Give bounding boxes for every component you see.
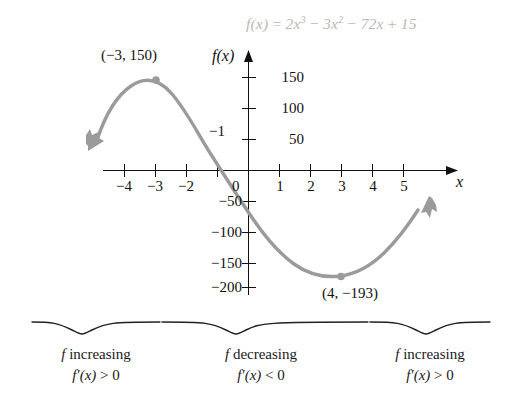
- interval-right-behavior: f increasing: [350, 344, 510, 364]
- x-tick-label-3: 3: [331, 178, 353, 195]
- interval-right-derivative: f′(x) > 0: [350, 365, 510, 385]
- x-axis-label: x: [456, 173, 463, 191]
- interval-braces: [32, 322, 490, 334]
- y-tick-label-neg50: −50: [186, 193, 242, 210]
- y-tick-label-neg200: −200: [186, 279, 242, 296]
- local-minimum-label: (4, −193): [322, 285, 378, 302]
- interval-left-derivative: f′(x) > 0: [16, 365, 176, 385]
- y-tick-label-150: 150: [258, 69, 304, 86]
- interval-annotation-right: f increasing f′(x) > 0: [350, 344, 510, 385]
- brace-increasing-right: [370, 322, 490, 334]
- min-point-marker: [337, 273, 345, 281]
- brace-decreasing-middle: [162, 322, 368, 334]
- y-tick-label-neg100: −100: [186, 224, 242, 241]
- interval-middle-derivative: f′(x) < 0: [181, 365, 341, 385]
- x-tick-label-neg1: −1: [206, 123, 228, 140]
- y-tick-label-100: 100: [258, 100, 304, 117]
- y-axis-arrowhead: [244, 50, 253, 62]
- interval-annotation-middle: f decreasing f′(x) < 0: [181, 344, 341, 385]
- y-tick-label-50: 50: [258, 131, 304, 148]
- x-tick-label-1: 1: [269, 178, 291, 195]
- local-maximum-label: (−3, 150): [101, 47, 157, 64]
- figure-container: f(x) = 2x3 − 3x2 − 72x + 15: [0, 0, 514, 410]
- x-tick-label-neg3: −3: [144, 178, 166, 195]
- brace-increasing-left: [32, 322, 160, 334]
- x-tick-label-neg2: −2: [175, 178, 197, 195]
- y-axis-label: f(x): [212, 47, 234, 65]
- interval-middle-behavior: f decreasing: [181, 344, 341, 364]
- max-point-marker: [152, 76, 160, 84]
- x-tick-label-2: 2: [300, 178, 322, 195]
- x-tick-label-neg4: −4: [113, 178, 135, 195]
- curve-right-arrowhead: [421, 196, 437, 218]
- interval-annotation-left: f increasing f′(x) > 0: [16, 344, 176, 385]
- x-tick-label-4: 4: [362, 178, 384, 195]
- interval-left-behavior: f increasing: [16, 344, 176, 364]
- origin-label: 0: [232, 178, 240, 195]
- x-tick-label-5: 5: [393, 178, 415, 195]
- y-tick-label-neg150: −150: [186, 255, 242, 272]
